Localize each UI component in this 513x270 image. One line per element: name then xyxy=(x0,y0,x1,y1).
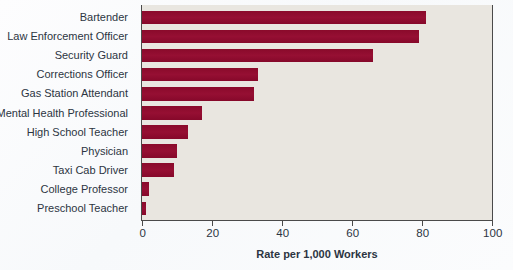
x-axis-tick xyxy=(282,220,283,226)
x-axis-tick-label: 20 xyxy=(206,227,219,239)
bar xyxy=(142,202,146,216)
bar-row xyxy=(142,27,492,46)
category-label: Taxi Cab Driver xyxy=(53,161,128,180)
x-axis-tick-label: 100 xyxy=(483,227,502,239)
bar xyxy=(142,68,258,82)
category-label: Law Enforcement Officer xyxy=(7,27,128,46)
x-axis-line xyxy=(141,220,493,221)
x-axis-tick-label: 80 xyxy=(416,227,429,239)
bar-row xyxy=(142,65,492,84)
category-label: College Professor xyxy=(41,180,128,199)
bar-chart-figure: BartenderLaw Enforcement OfficerSecurity… xyxy=(0,0,513,270)
bar xyxy=(142,144,177,158)
y-axis-line xyxy=(141,5,142,220)
bar-row xyxy=(142,84,492,103)
category-label: Gas Station Attendant xyxy=(21,84,128,103)
plot-area xyxy=(142,5,493,220)
bar xyxy=(142,125,188,139)
bar-row xyxy=(142,161,492,180)
category-label: Mental Health Professional xyxy=(0,104,128,123)
x-axis-tick xyxy=(352,220,353,226)
x-axis-tick xyxy=(212,220,213,226)
bar-row xyxy=(142,142,492,161)
bar-row xyxy=(142,123,492,142)
bar xyxy=(142,49,373,63)
x-axis-title: Rate per 1,000 Workers xyxy=(142,248,492,260)
x-axis-tick-label: 40 xyxy=(276,227,289,239)
category-label: Preschool Teacher xyxy=(37,199,128,218)
bar xyxy=(142,11,426,25)
category-label: Corrections Officer xyxy=(37,65,129,84)
bar-row xyxy=(142,8,492,27)
category-label: High School Teacher xyxy=(27,123,128,142)
category-label: Physician xyxy=(81,142,128,161)
x-axis-tick xyxy=(422,220,423,226)
bar xyxy=(142,163,174,177)
bar xyxy=(142,106,202,120)
x-axis-tick xyxy=(142,220,143,226)
x-axis-tick-label: 0 xyxy=(139,227,145,239)
category-label: Bartender xyxy=(80,8,128,27)
bar-row xyxy=(142,104,492,123)
bar-row xyxy=(142,180,492,199)
bar xyxy=(142,30,419,44)
category-label-column: BartenderLaw Enforcement OfficerSecurity… xyxy=(0,8,134,218)
x-axis-tick xyxy=(492,220,493,226)
category-label: Security Guard xyxy=(55,46,128,65)
x-axis-tick-label: 60 xyxy=(346,227,359,239)
bar xyxy=(142,87,254,101)
bar-row xyxy=(142,199,492,218)
bar-row xyxy=(142,46,492,65)
bar xyxy=(142,182,149,196)
